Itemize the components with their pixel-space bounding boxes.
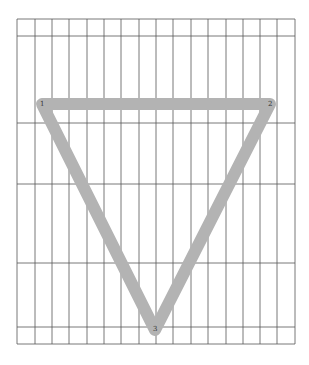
vertex-label-2: 2 — [268, 101, 272, 108]
grid-lines — [17, 19, 295, 344]
diagram-canvas — [0, 0, 309, 365]
vertex-label-1: 1 — [40, 101, 44, 108]
vertex-label-3: 3 — [153, 326, 157, 333]
